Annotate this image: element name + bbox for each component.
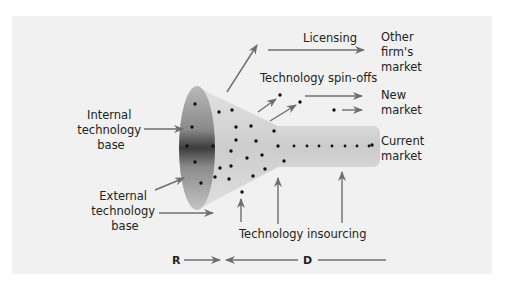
spin-offs-label: Technology spin-offs	[259, 71, 377, 85]
insourcing-label: Technology insourcing	[238, 227, 366, 241]
other-market-label: Other firm's market	[381, 30, 422, 74]
diagram-canvas: Internal technology base External techno…	[0, 0, 507, 289]
funnel-tube	[270, 126, 380, 167]
current-market-label: Current market	[381, 134, 428, 163]
development-label: D	[303, 254, 312, 267]
licensing-label: Licensing	[303, 31, 357, 45]
funnel-mouth	[179, 86, 215, 210]
research-label: R	[172, 254, 181, 267]
